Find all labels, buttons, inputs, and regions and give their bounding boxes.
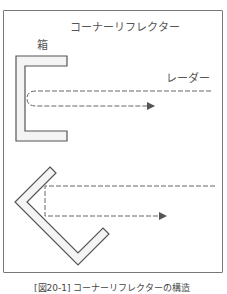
radar-label: レーダー <box>166 73 210 84</box>
radar-wave-reflector <box>45 186 215 216</box>
figure-caption: [図20-1] コーナーリフレクターの構造 <box>34 281 190 294</box>
radar-wave-box <box>27 91 211 106</box>
box-shape <box>16 56 67 141</box>
figure-title: コーナーリフレクター <box>70 22 180 33</box>
box-label: 箱 <box>37 40 48 51</box>
